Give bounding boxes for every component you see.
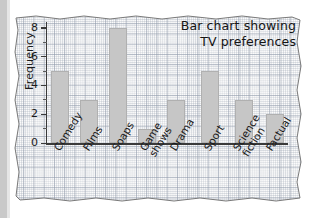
left-edge-strip bbox=[0, 0, 7, 218]
plot-area: 0 2 4 6 8 Frequency Bar chart showing TV… bbox=[12, 12, 304, 204]
y-tick-label-0-box: 0 bbox=[12, 137, 38, 149]
y-axis-title: Frequency bbox=[23, 19, 37, 103]
graph-paper-sheet: 0 2 4 6 8 Frequency Bar chart showing TV… bbox=[12, 12, 304, 204]
y-tick-label-0: 0 bbox=[14, 137, 38, 148]
left-edge-strip-inner bbox=[7, 0, 10, 218]
y-tick-label-2: 2 bbox=[14, 108, 38, 119]
screenshot-root: 0 2 4 6 8 Frequency Bar chart showing TV… bbox=[0, 0, 313, 218]
y-tick-label-2-box: 2 bbox=[12, 108, 38, 120]
